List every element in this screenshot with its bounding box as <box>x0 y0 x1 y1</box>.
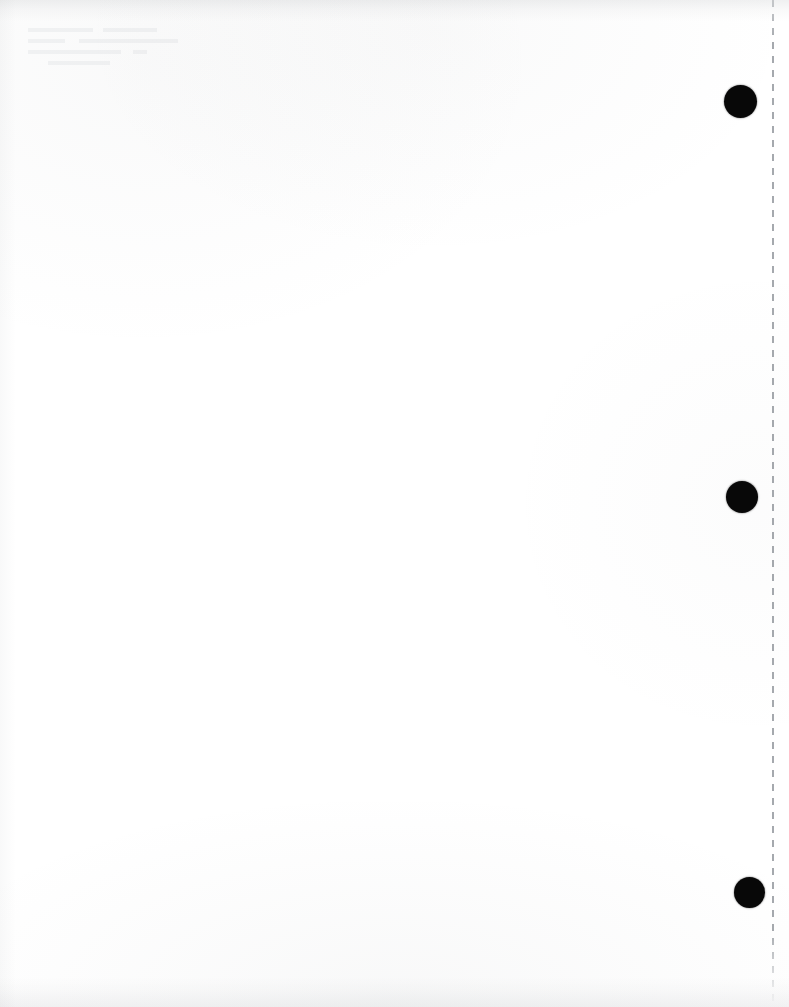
scanned-page <box>0 0 789 1007</box>
ink-dot-bottom <box>734 877 765 908</box>
scan-edge-shadow-bottom <box>0 977 789 1007</box>
vertical-dashed-rule <box>772 0 774 1007</box>
scan-edge-shadow-top <box>0 0 789 22</box>
ghost-showthrough-text <box>28 28 198 74</box>
ink-dot-middle <box>726 481 758 513</box>
scan-edge-shadow-left <box>0 0 16 1007</box>
ink-dot-top <box>724 85 757 118</box>
paper-background <box>0 0 789 1007</box>
